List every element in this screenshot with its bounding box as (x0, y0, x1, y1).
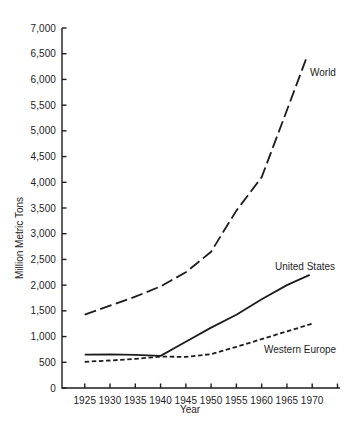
x-tick-label: 1970 (301, 395, 324, 406)
y-axis-title: Million Metric Tons (14, 197, 25, 279)
x-tick-label: 1960 (250, 395, 273, 406)
x-tick-label: 1965 (276, 395, 299, 406)
y-tick-label: 4,500 (30, 151, 56, 162)
series-line-western-europe (85, 324, 313, 362)
x-tick-label: 1930 (99, 395, 122, 406)
y-tick-label: 0 (50, 383, 56, 394)
series-label-world: World (310, 67, 336, 78)
y-tick-label: 3,000 (30, 228, 56, 239)
y-tick-label: 7,000 (30, 23, 56, 34)
series-label-western-europe: Western Europe (264, 344, 337, 355)
y-tick-label: 500 (39, 357, 56, 368)
y-tick-label: 3,500 (30, 203, 56, 214)
fossil-fuel-line-chart: 05001,0001,5002,0002,5003,0003,5004,0004… (0, 0, 356, 432)
x-tick-label: 1955 (225, 395, 248, 406)
series-label-united-states: United States (275, 261, 335, 272)
y-tick-label: 6,500 (30, 48, 56, 59)
y-tick-label: 4,000 (30, 177, 56, 188)
chart-figure: 05001,0001,5002,0002,5003,0003,5004,0004… (0, 0, 356, 432)
y-tick-label: 1,000 (30, 331, 56, 342)
y-tick-label: 5,500 (30, 100, 56, 111)
x-tick-label: 1950 (200, 395, 223, 406)
x-tick-label: 1940 (149, 395, 172, 406)
series-line-world (85, 56, 307, 314)
y-tick-label: 2,500 (30, 254, 56, 265)
x-tick-label: 1925 (73, 395, 96, 406)
y-tick-label: 1,500 (30, 305, 56, 316)
y-tick-label: 2,000 (30, 280, 56, 291)
x-tick-label: 1935 (124, 395, 147, 406)
x-axis-title: Year (180, 404, 201, 415)
y-tick-label: 5,000 (30, 125, 56, 136)
y-tick-label: 6,000 (30, 74, 56, 85)
